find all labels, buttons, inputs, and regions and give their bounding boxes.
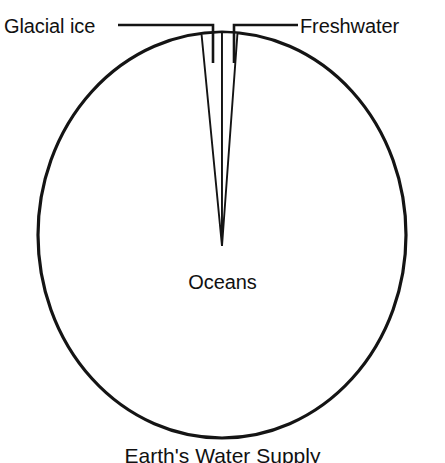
earths-water-supply-pie-chart	[0, 0, 445, 463]
figure-caption: Earth's Water Supply	[0, 444, 445, 463]
slice-label-freshwater: Freshwater	[300, 16, 399, 36]
slice-label-glacial-ice: Glacial ice	[4, 16, 95, 36]
slice-label-oceans: Oceans	[0, 272, 445, 292]
